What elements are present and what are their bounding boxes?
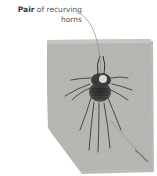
fossil-illustration bbox=[0, 0, 157, 176]
trilobite-glabella bbox=[99, 75, 107, 83]
